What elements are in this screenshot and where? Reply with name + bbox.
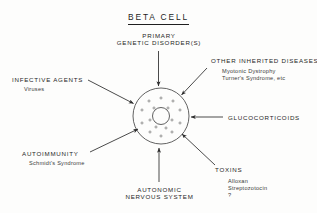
granule xyxy=(172,100,174,102)
label-autonomic: AUTONOMIC NERVOUS SYSTEM xyxy=(102,186,217,201)
label-toxins-item3: ? xyxy=(228,192,231,199)
beta-cell-figure: BETA CELL xyxy=(0,0,317,213)
label-other-inherited-item2: Turner's Syndrome, etc xyxy=(222,75,285,82)
granule xyxy=(141,122,143,124)
label-other-inherited-item1: Myotonic Dystrophy xyxy=(222,68,276,75)
granule xyxy=(141,109,143,111)
label-infective-agents-item1: Viruses xyxy=(24,86,44,93)
label-autonomic-line1: AUTONOMIC xyxy=(102,186,217,193)
label-primary-genetic-line1: PRIMARY xyxy=(98,32,220,39)
granule xyxy=(167,107,169,109)
granule xyxy=(148,100,150,102)
granule xyxy=(160,135,162,137)
label-autoimmunity-heading: AUTOIMMUNITY xyxy=(22,150,79,157)
granule xyxy=(165,127,167,129)
beta-cell-nucleus xyxy=(153,108,170,125)
granule xyxy=(179,109,181,111)
label-autonomic-line2: NERVOUS SYSTEM xyxy=(102,193,217,200)
granule xyxy=(149,131,151,133)
granule xyxy=(179,122,181,124)
granule xyxy=(171,119,173,121)
arrow-infective-agents xyxy=(88,80,134,104)
label-toxins-heading: TOXINS xyxy=(215,166,242,173)
label-glucocorticoids-heading: GLUCOCORTICOIDS xyxy=(228,114,300,121)
label-infective-agents-heading: INFECTIVE AGENTS xyxy=(12,76,83,83)
arrow-autoimmunity xyxy=(90,129,138,152)
label-primary-genetic-line2: GENETIC DISORDER(S) xyxy=(98,39,220,46)
label-toxins-item1: Alloxan xyxy=(228,178,248,185)
label-other-inherited-heading: OTHER INHERITED DISEASES xyxy=(211,57,317,64)
granule xyxy=(155,126,157,128)
label-toxins-item2: Streptozotocin xyxy=(228,185,267,192)
arrow-other-inherited xyxy=(182,68,208,95)
label-autoimmunity-item1: Schmidt's Syndrome xyxy=(29,160,85,167)
granule-group xyxy=(141,97,181,137)
granule xyxy=(149,119,151,121)
granule xyxy=(153,107,155,109)
beta-cell-membrane xyxy=(133,88,189,144)
granule xyxy=(160,97,162,99)
granule xyxy=(171,131,173,133)
arrow-toxins xyxy=(182,134,215,165)
label-primary-genetic: PRIMARY GENETIC DISORDER(S) xyxy=(98,32,220,47)
